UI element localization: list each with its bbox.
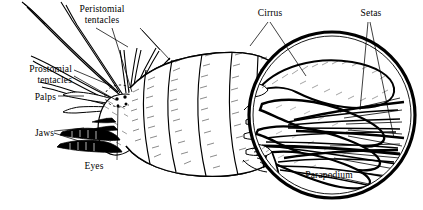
- label-parapodium: Parapodium: [283, 170, 375, 181]
- label-setas: Setas: [345, 8, 397, 19]
- label-jaws: Jaws: [6, 128, 54, 139]
- label-peristomial-tentacles-line2: tentacles: [85, 15, 120, 25]
- label-peristomial-tentacles: Peristomial tentacles: [62, 4, 142, 25]
- label-peristomial-tentacles-line1: Peristomial: [80, 4, 125, 14]
- label-prostomial-tentacles-line2: tentacles: [37, 75, 72, 85]
- label-eyes: Eyes: [70, 161, 118, 172]
- label-prostomial-tentacles-line1: Prostomial: [29, 64, 72, 74]
- label-cirrus: Cirrus: [240, 8, 300, 19]
- label-palps: Palps: [0, 92, 56, 103]
- label-prostomial-tentacles: Prostomial tentacles: [0, 64, 72, 85]
